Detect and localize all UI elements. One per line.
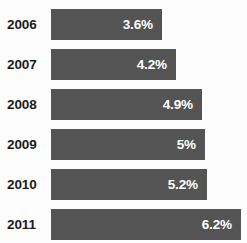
chart-row: 2009 5% — [0, 129, 247, 160]
bar-2010[interactable]: 5.2% — [51, 169, 207, 200]
bar-value-label-2006: 3.6% — [123, 17, 153, 32]
bar-value-label-2010: 5.2% — [168, 177, 198, 192]
bar-chart: 2006 3.6% 2007 4.2% 2008 4.9% 2009 5% 20… — [0, 0, 247, 243]
category-label-2011: 2011 — [7, 209, 51, 240]
chart-row: 2008 4.9% — [0, 89, 247, 120]
bar-value-label-2008: 4.9% — [163, 97, 193, 112]
bar-2009[interactable]: 5% — [51, 129, 205, 160]
category-label-2007: 2007 — [7, 49, 51, 80]
chart-row: 2007 4.2% — [0, 49, 247, 80]
category-label-2008: 2008 — [7, 89, 51, 120]
bar-value-label-2009: 5% — [177, 137, 196, 152]
category-label-2006: 2006 — [7, 9, 51, 40]
bar-value-label-2011: 6.2% — [202, 217, 232, 232]
chart-row: 2006 3.6% — [0, 9, 247, 40]
bar-2008[interactable]: 4.9% — [51, 89, 202, 120]
category-label-2009: 2009 — [7, 129, 51, 160]
bar-value-label-2007: 4.2% — [137, 57, 167, 72]
chart-row: 2010 5.2% — [0, 169, 247, 200]
chart-row: 2011 6.2% — [0, 209, 247, 240]
bar-2007[interactable]: 4.2% — [51, 49, 176, 80]
bar-2011[interactable]: 6.2% — [51, 209, 241, 240]
bar-2006[interactable]: 3.6% — [51, 9, 162, 40]
category-label-2010: 2010 — [7, 169, 51, 200]
